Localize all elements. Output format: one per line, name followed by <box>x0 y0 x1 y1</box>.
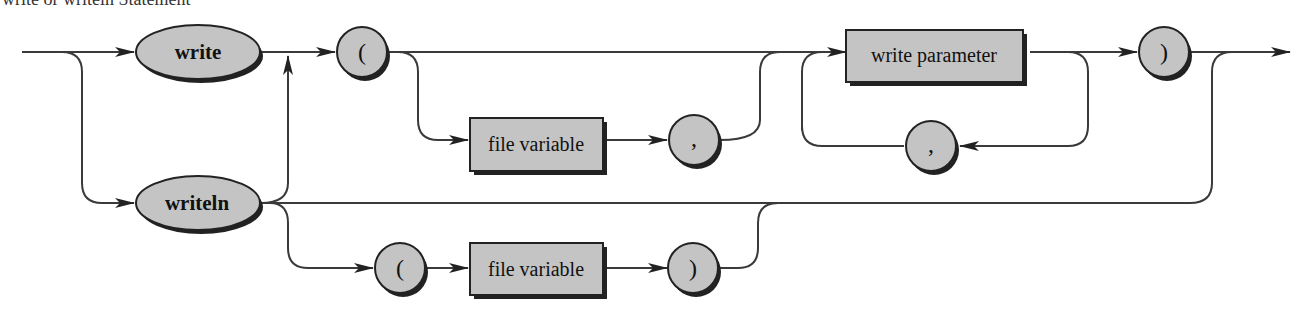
write-keyword-node: write <box>136 25 263 83</box>
writeln-keyword-node: writeln <box>136 176 263 234</box>
lparen-bottom-label: ( <box>396 255 404 281</box>
rparen-bottom-label: ) <box>689 255 697 281</box>
write-parameter-node: write parameter <box>846 30 1027 86</box>
syntax-diagram: write writeln ( file variable , write pa… <box>0 0 1309 310</box>
line-comma-up <box>720 52 780 140</box>
write-label: write <box>175 40 222 64</box>
arrow-to-writeln <box>62 52 134 203</box>
arrow-writeln-up <box>261 56 288 203</box>
arrow-into-write-parameter <box>802 52 846 130</box>
write-parameter-label: write parameter <box>871 44 997 67</box>
lparen-top-node: ( <box>337 27 390 81</box>
file-variable-top-node: file variable <box>470 118 607 175</box>
comma-top-node: , <box>669 115 722 169</box>
writeln-label: writeln <box>165 191 229 215</box>
lparen-bottom-node: ( <box>375 243 428 297</box>
comma-loop-node: , <box>906 121 959 175</box>
rparen-top-node: ) <box>1139 27 1192 81</box>
connector-lines <box>22 52 1290 268</box>
file-variable-top-label: file variable <box>488 133 584 155</box>
line-loop-back <box>802 126 904 146</box>
arrow-to-file-variable-top <box>398 52 468 140</box>
comma-top-label: , <box>691 125 697 151</box>
rparen-top-label: ) <box>1160 39 1168 65</box>
line-rparen-bottom-up <box>719 203 778 268</box>
rparen-bottom-node: ) <box>668 243 721 297</box>
line-writeln-bypass <box>261 52 1232 203</box>
file-variable-bottom-label: file variable <box>488 258 584 280</box>
comma-loop-label: , <box>928 131 934 157</box>
arrow-to-lparen-bottom <box>270 203 373 268</box>
file-variable-bottom-node: file variable <box>470 243 607 299</box>
lparen-top-label: ( <box>358 39 366 65</box>
